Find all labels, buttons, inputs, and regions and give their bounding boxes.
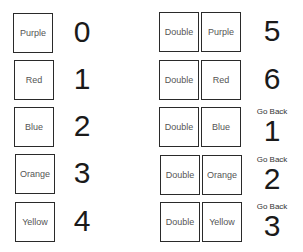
modifier-card-double: Double <box>160 155 200 195</box>
value-label: 3 <box>67 158 97 188</box>
color-card-orange: Orange <box>202 155 242 195</box>
value-label: 3 <box>252 211 292 241</box>
color-card-purple: Purple <box>13 13 53 53</box>
value-label: 4 <box>67 206 97 236</box>
color-card-red: Red <box>14 60 54 100</box>
value-label: 6 <box>252 64 292 94</box>
color-card-yellow: Yellow <box>202 202 242 242</box>
color-card-red: Red <box>201 60 241 100</box>
value-label: 2 <box>252 164 292 194</box>
modifier-card-double: Double <box>160 202 200 242</box>
modifier-card-double: Double <box>159 60 199 100</box>
modifier-card-double: Double <box>159 107 199 147</box>
value-label: 1 <box>252 116 292 146</box>
color-card-purple: Purple <box>201 12 241 52</box>
value-label: 2 <box>67 111 97 141</box>
color-card-orange: Orange <box>15 154 55 194</box>
color-card-blue: Blue <box>14 107 54 147</box>
value-label: 5 <box>252 16 292 46</box>
modifier-card-double: Double <box>159 12 199 52</box>
value-label: 0 <box>67 17 97 47</box>
color-card-blue: Blue <box>201 107 241 147</box>
value-label: 1 <box>67 64 97 94</box>
color-card-yellow: Yellow <box>15 202 55 242</box>
